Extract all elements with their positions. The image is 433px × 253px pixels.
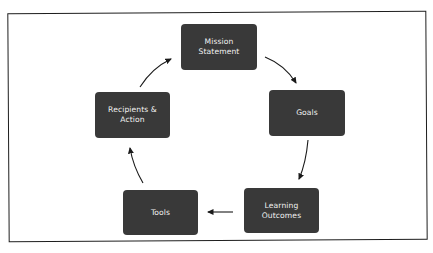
node-learning-outcomes: Learning Outcomes (244, 188, 319, 233)
node-label-line: Outcomes (262, 211, 301, 221)
node-label-line: Learning (262, 201, 301, 211)
node-tools: Tools (123, 190, 198, 235)
node-label-line: Statement (199, 47, 240, 57)
arrow-tools-to-recipients (130, 148, 143, 183)
node-label-line: Action (108, 115, 157, 125)
node-label-line: Tools (151, 208, 170, 218)
node-recipients-action: Recipients & Action (95, 92, 170, 138)
node-goals: Goals (269, 90, 345, 136)
arrow-mission-to-goals (265, 57, 296, 83)
node-label-line: Mission (199, 37, 240, 47)
node-mission-statement: Mission Statement (181, 24, 257, 70)
arrow-recipients-to-mission (140, 59, 171, 87)
node-label-line: Goals (296, 108, 318, 118)
node-label-line: Recipients & (108, 105, 157, 115)
arrow-goals-to-learning (299, 140, 308, 179)
